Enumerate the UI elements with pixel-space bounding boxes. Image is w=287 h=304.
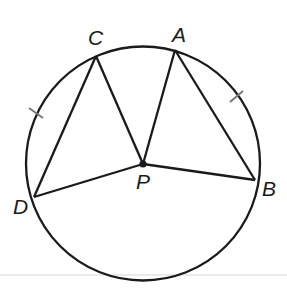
label-c: C: [88, 26, 104, 49]
label-b: B: [262, 177, 276, 200]
label-p: P: [136, 170, 150, 193]
radius-pc: [96, 56, 143, 164]
chord-ab: [175, 50, 255, 180]
center-point-p: [139, 160, 146, 167]
radius-pb: [143, 164, 255, 180]
radius-pa: [143, 50, 175, 164]
label-d: D: [13, 195, 28, 218]
label-a: A: [170, 23, 186, 46]
radius-pd: [34, 164, 143, 197]
circle-diagram: C A B D P: [0, 0, 287, 304]
